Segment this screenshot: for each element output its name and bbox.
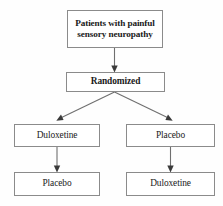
edge-population-to-randomized (111, 48, 117, 73)
node-arm-b-period2-label: Duloxetine (127, 178, 214, 189)
node-arm-b-period2: Duloxetine (126, 172, 215, 196)
node-arm-a-period1: Duloxetine (14, 124, 100, 147)
edge-randomized-to-arm-b (115, 92, 173, 121)
edge-randomized-to-arm-a (56, 92, 114, 121)
flowchart-canvas: Patients with painful sensory neuropathy… (0, 0, 223, 206)
node-randomized: Randomized (66, 72, 165, 92)
node-arm-a-period1-label: Duloxetine (15, 130, 99, 141)
node-population-label: Patients with painful sensory neuropathy (68, 18, 162, 40)
node-arm-b-period1: Placebo (126, 124, 215, 147)
node-randomized-label: Randomized (67, 76, 164, 87)
node-population: Patients with painful sensory neuropathy (67, 10, 163, 48)
edge-arm-a-period1-to-period2 (54, 147, 60, 173)
node-arm-b-period1-label: Placebo (127, 130, 214, 141)
edge-arm-b-period1-to-period2 (167, 147, 173, 173)
node-arm-a-period2: Placebo (14, 172, 100, 196)
node-arm-a-period2-label: Placebo (15, 178, 99, 189)
